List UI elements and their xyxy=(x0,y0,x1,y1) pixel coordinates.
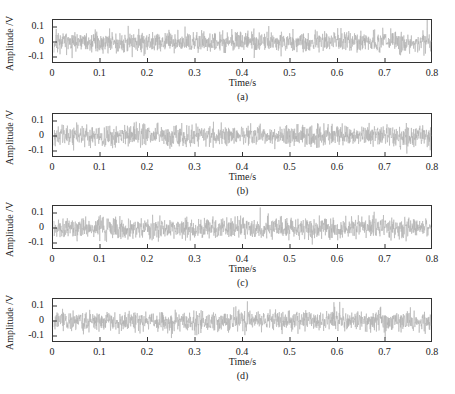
x-tick-label: 0 xyxy=(40,68,64,78)
x-tick-label: 0.8 xyxy=(420,68,444,78)
x-tick-label: 0.6 xyxy=(325,68,349,78)
y-tick-label: -0.1 xyxy=(14,145,44,155)
signal-trace xyxy=(53,206,433,250)
x-tick-label: 0.7 xyxy=(373,254,397,264)
plot-area xyxy=(52,19,432,63)
y-tick-label: 0 xyxy=(14,222,44,232)
x-tick-label: 0.1 xyxy=(88,347,112,357)
signal-trace xyxy=(53,20,433,64)
x-tick-label: 0.2 xyxy=(135,254,159,264)
y-tick-label: 0.1 xyxy=(14,207,44,217)
y-tick-label: -0.1 xyxy=(14,51,44,61)
x-tick-label: 0.5 xyxy=(278,68,302,78)
subplot-caption: (d) xyxy=(0,371,455,381)
x-tick-label: 0 xyxy=(40,347,64,357)
x-tick-label: 0.3 xyxy=(183,347,207,357)
x-axis-label: Time/s xyxy=(0,78,455,88)
x-tick-label: 0.3 xyxy=(183,162,207,172)
plot-area xyxy=(52,113,432,157)
x-tick-label: 0.1 xyxy=(88,68,112,78)
plot-area xyxy=(52,205,432,249)
x-tick-label: 0.5 xyxy=(278,162,302,172)
plot-area xyxy=(52,298,432,342)
x-axis-label: Time/s xyxy=(0,264,455,274)
x-tick-label: 0.1 xyxy=(88,254,112,264)
x-tick-label: 0.7 xyxy=(373,162,397,172)
x-axis-label: Time/s xyxy=(0,172,455,182)
x-tick-label: 0.8 xyxy=(420,162,444,172)
x-tick-label: 0.2 xyxy=(135,162,159,172)
subplot-caption: (c) xyxy=(0,278,455,288)
y-tick-label: 0.1 xyxy=(14,115,44,125)
y-tick-label: 0.1 xyxy=(14,300,44,310)
x-tick-label: 0.3 xyxy=(183,254,207,264)
x-tick-label: 0.6 xyxy=(325,254,349,264)
x-axis-label: Time/s xyxy=(0,357,455,367)
y-tick-label: 0 xyxy=(14,130,44,140)
x-tick-label: 0.7 xyxy=(373,347,397,357)
signal-trace xyxy=(53,299,433,343)
signal-trace xyxy=(53,114,433,158)
y-tick-label: 0 xyxy=(14,36,44,46)
y-tick-label: -0.1 xyxy=(14,237,44,247)
subplot-caption: (b) xyxy=(0,186,455,196)
x-tick-label: 0 xyxy=(40,254,64,264)
y-tick-label: 0 xyxy=(14,315,44,325)
x-tick-label: 0.3 xyxy=(183,68,207,78)
x-tick-label: 0.2 xyxy=(135,347,159,357)
x-tick-label: 0.8 xyxy=(420,347,444,357)
x-tick-label: 0.8 xyxy=(420,254,444,264)
x-tick-label: 0.6 xyxy=(325,162,349,172)
x-tick-label: 0 xyxy=(40,162,64,172)
y-tick-label: -0.1 xyxy=(14,330,44,340)
x-tick-label: 0.2 xyxy=(135,68,159,78)
subplot-caption: (a) xyxy=(0,92,455,102)
x-tick-label: 0.5 xyxy=(278,347,302,357)
y-tick-label: 0.1 xyxy=(14,21,44,31)
x-tick-label: 0.7 xyxy=(373,68,397,78)
x-tick-label: 0.5 xyxy=(278,254,302,264)
x-tick-label: 0.6 xyxy=(325,347,349,357)
x-tick-label: 0.1 xyxy=(88,162,112,172)
